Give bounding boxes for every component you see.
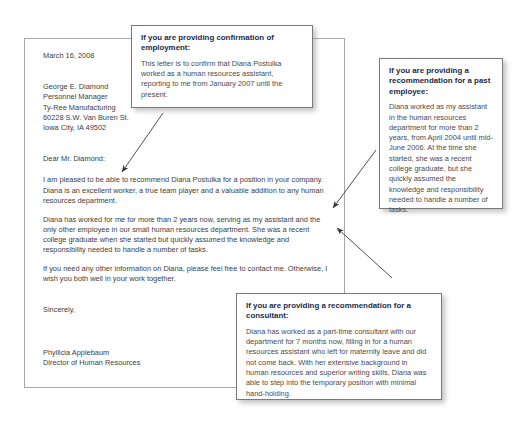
callout-confirmation-of-employment: If you are providing confirmation of emp… xyxy=(131,25,313,108)
body-paragraph-3: If you need any other information on Dia… xyxy=(43,264,331,284)
callout-past-employee-title: If you are providing a recommendation fo… xyxy=(389,66,493,97)
body-paragraph-2: Diana has worked for me for more than 2 … xyxy=(43,215,331,256)
salutation: Dear Mr. Diamond: xyxy=(43,154,331,164)
spacer xyxy=(43,133,331,154)
callout-consultant: If you are providing a recommendation fo… xyxy=(236,293,442,400)
callout-past-employee-text: Diana worked as my assistant in the huma… xyxy=(389,102,493,215)
callout-past-employee: If you are providing a recommendation fo… xyxy=(379,58,503,209)
callout-consultant-text: Diana has worked as a part-time consulta… xyxy=(246,327,432,399)
leader-line-consultant xyxy=(337,228,392,278)
spacer xyxy=(43,164,331,175)
callout-consultant-title: If you are providing a recommendation fo… xyxy=(246,301,432,322)
recommendation-letter-diagram: March 16, 2008 George E. Diamond Personn… xyxy=(0,0,513,423)
body-paragraph-1: I am pleased to be able to recommend Dia… xyxy=(43,175,331,206)
recipient-city-state-zip: Iowa City, IA 49502 xyxy=(43,123,331,133)
callout-confirmation-text: This letter is to confirm that Diana Pos… xyxy=(141,59,303,100)
callout-confirmation-title: If you are providing confirmation of emp… xyxy=(141,33,303,54)
recipient-street: 60228 S.W. Van Buren St. xyxy=(43,113,331,123)
